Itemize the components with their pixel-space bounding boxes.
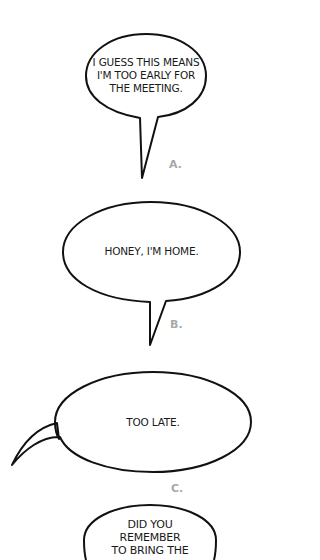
bubble-c-line-1: TOO LATE. <box>55 416 251 429</box>
bubble-b-shape <box>63 202 240 345</box>
label-a: A. <box>169 158 182 171</box>
bubble-a-line-2: I'M TOO EARLY FOR <box>86 69 206 82</box>
bubble-a-line-3: THE MEETING. <box>86 82 206 95</box>
bubble-a-line-1: I GUESS THIS MEANS <box>86 56 206 69</box>
bubble-d-text: DID YOU REMEMBER TO BRING THE <box>84 518 216 557</box>
label-b: B. <box>170 318 183 331</box>
bubble-d-line-2: REMEMBER <box>84 531 216 544</box>
bubble-b-text: HONEY, I'M HOME. <box>63 245 240 258</box>
bubble-d-line-1: DID YOU <box>84 518 216 531</box>
bubble-b-line-1: HONEY, I'M HOME. <box>63 245 240 258</box>
bubble-c-text: TOO LATE. <box>55 416 251 429</box>
bubble-d-line-3: TO BRING THE <box>84 544 216 557</box>
label-c: C. <box>171 482 183 495</box>
bubble-a-text: I GUESS THIS MEANS I'M TOO EARLY FOR THE… <box>86 56 206 95</box>
